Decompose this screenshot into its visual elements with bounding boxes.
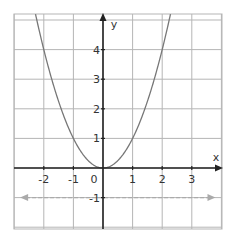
parabola-chart: -2-1123-112340xy xyxy=(0,0,233,241)
y-axis-label: y xyxy=(111,18,118,31)
grid xyxy=(14,14,222,229)
origin-label: 0 xyxy=(91,173,98,186)
arrow-left-icon xyxy=(20,194,28,201)
grid-border xyxy=(14,14,222,229)
y-tick-label: 4 xyxy=(93,44,100,57)
y-tick-label: 2 xyxy=(93,103,100,116)
x-tick-label: 2 xyxy=(159,173,166,186)
tick-labels: -2-1123-112340xy xyxy=(38,18,219,205)
arrow-right-icon xyxy=(207,194,215,201)
x-axis-label: x xyxy=(213,151,220,164)
y-tick-label: -1 xyxy=(89,192,100,205)
x-tick-label: -2 xyxy=(38,173,49,186)
y-tick-label: 3 xyxy=(93,73,100,86)
x-tick-label: 3 xyxy=(188,173,195,186)
x-tick-label: 1 xyxy=(129,173,136,186)
x-tick-label: -1 xyxy=(68,173,79,186)
y-tick-label: 1 xyxy=(93,132,100,145)
curves xyxy=(20,14,215,201)
